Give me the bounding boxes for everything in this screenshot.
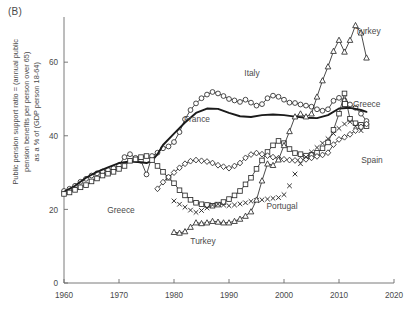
data-marker <box>260 198 265 203</box>
y-axis-label: Public pension support ratio = (annual p… <box>11 0 43 227</box>
data-marker <box>73 188 78 193</box>
data-marker <box>188 208 193 213</box>
data-marker <box>287 157 292 163</box>
data-marker <box>172 140 177 145</box>
data-marker <box>293 101 298 106</box>
y-tick-label: 40 <box>49 132 59 141</box>
data-marker <box>204 159 209 165</box>
greece-left-label: Greece <box>107 205 135 215</box>
series-group <box>62 22 370 235</box>
data-marker <box>348 102 353 107</box>
x-tick-label: 2010 <box>330 291 349 300</box>
data-marker <box>342 91 347 96</box>
data-marker <box>199 158 204 164</box>
data-marker <box>271 93 276 98</box>
data-marker <box>227 97 232 102</box>
data-marker <box>210 90 215 95</box>
data-marker <box>193 157 198 163</box>
data-marker <box>238 189 243 194</box>
data-marker <box>232 203 237 208</box>
data-marker <box>331 48 337 53</box>
data-marker <box>359 111 364 116</box>
data-marker <box>243 200 248 205</box>
data-marker <box>342 49 348 54</box>
data-marker <box>347 37 353 42</box>
data-marker <box>287 100 292 105</box>
x-tick-label: 2020 <box>385 291 404 300</box>
data-marker <box>243 97 248 102</box>
turkey-low-label: Turkey <box>190 236 216 246</box>
data-marker <box>298 152 303 157</box>
portugal-label: Portugal <box>266 201 297 211</box>
data-marker <box>183 205 188 210</box>
data-marker <box>259 151 264 157</box>
data-marker <box>232 218 238 223</box>
legend-label-greece: Greece <box>353 99 381 109</box>
data-marker <box>271 196 276 201</box>
data-marker <box>210 160 215 166</box>
data-marker <box>265 161 271 166</box>
data-marker <box>260 158 265 163</box>
data-marker <box>342 122 347 127</box>
data-marker <box>292 158 297 164</box>
turkey-top-label: Turkey <box>355 26 381 36</box>
data-marker <box>216 91 221 96</box>
data-marker <box>282 192 287 197</box>
data-marker <box>171 229 177 234</box>
data-marker <box>337 126 342 131</box>
data-marker <box>117 167 122 172</box>
data-marker <box>133 157 138 162</box>
data-marker <box>150 158 155 163</box>
data-marker <box>265 96 270 101</box>
data-marker <box>95 176 100 181</box>
data-marker <box>249 175 254 180</box>
data-marker <box>254 150 259 156</box>
data-marker <box>232 193 237 198</box>
chart-canvas: 19601970198019902000201020200204060 Ital… <box>0 0 412 309</box>
data-marker <box>194 210 199 215</box>
data-marker <box>144 172 149 177</box>
data-marker <box>67 190 72 195</box>
data-marker <box>315 107 320 112</box>
data-marker <box>314 94 320 99</box>
data-marker <box>183 193 188 198</box>
data-marker <box>188 158 193 164</box>
data-marker <box>226 165 231 171</box>
data-marker <box>221 164 226 170</box>
data-marker <box>144 154 149 159</box>
x-tick-label: 1960 <box>55 291 74 300</box>
data-marker <box>320 152 325 158</box>
data-marker <box>303 114 309 119</box>
data-marker <box>309 111 315 116</box>
data-marker <box>326 107 331 112</box>
x-tick-label: 2000 <box>275 291 294 300</box>
data-marker <box>364 55 370 60</box>
data-marker <box>111 170 116 175</box>
data-marker <box>337 95 342 100</box>
data-marker <box>282 97 287 102</box>
data-marker <box>232 98 237 103</box>
data-marker <box>188 108 193 113</box>
data-marker <box>298 111 304 116</box>
x-tick-label: 1980 <box>165 291 184 300</box>
x-tick-label: 1990 <box>220 291 239 300</box>
data-marker <box>122 164 127 169</box>
data-marker <box>243 182 248 187</box>
data-marker <box>237 216 243 221</box>
data-marker <box>287 184 292 189</box>
data-marker <box>128 159 133 164</box>
data-marker <box>227 203 232 208</box>
data-marker <box>315 145 320 150</box>
data-marker <box>304 103 309 108</box>
data-marker <box>210 218 216 223</box>
data-marker <box>194 101 199 106</box>
legend-marker-greece <box>342 101 347 106</box>
data-marker <box>62 192 67 197</box>
series-markers <box>62 90 369 194</box>
data-marker <box>287 128 293 133</box>
data-marker <box>293 172 298 177</box>
data-marker <box>227 197 232 202</box>
y-tick-label: 0 <box>53 279 58 288</box>
data-marker <box>320 78 326 83</box>
data-marker <box>194 200 199 205</box>
